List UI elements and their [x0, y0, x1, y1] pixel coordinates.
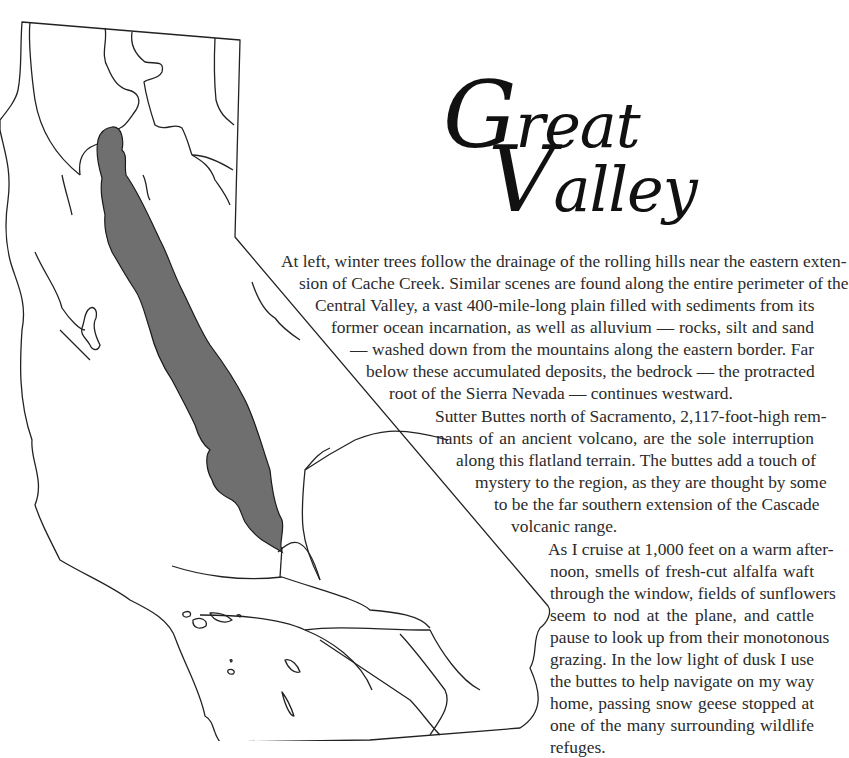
text-line: — washed down from the mountains along t… [350, 338, 814, 360]
text-line: sion of Cache Creek. Similar scenes are … [299, 272, 814, 294]
text-line: pause to look up from their monotonous [550, 626, 814, 648]
text-line: volcanic range. [511, 515, 617, 537]
text-line: through the window, fields of sunflowers [550, 582, 814, 604]
text-line: mystery to the region, as they are thoug… [475, 471, 814, 493]
text-line: the buttes to help navigate on my way [550, 670, 814, 692]
text-line: one of the many surrounding wildlife [550, 714, 814, 736]
text-line: home, passing snow geese stopped at [550, 692, 814, 714]
text-line: seem to nod at the plane, and cattle [550, 604, 814, 626]
text-line: refuges. [550, 736, 606, 758]
title-rest-valley: alley [553, 153, 696, 226]
text-line: nants of an ancient volcano, are the sol… [436, 427, 814, 449]
text-line: Sutter Buttes north of Sacramento, 2,117… [435, 405, 814, 427]
text-line: along this flatland terrain. The buttes … [456, 449, 814, 471]
page-title-line-2: Valley [488, 134, 697, 226]
text-line: noon, smells of fresh-cut alfalfa waft [550, 560, 814, 582]
text-line: Central Valley, a vast 400-mile-long pla… [315, 294, 814, 316]
text-line: root of the Sierra Nevada — continues we… [389, 382, 733, 404]
text-line: As I cruise at 1,000 feet on a warm afte… [548, 538, 814, 560]
text-line: grazing. In the low light of dusk I use [550, 648, 814, 670]
text-line: to be the far southern extension of the … [494, 493, 814, 515]
text-line: former ocean incarnation, as well as all… [331, 316, 814, 338]
text-line: At left, winter trees follow the drainag… [281, 250, 814, 272]
text-line: below these accumulated deposits, the be… [366, 360, 814, 382]
great-valley-region [97, 127, 283, 552]
title-initial-v: V [488, 126, 553, 233]
